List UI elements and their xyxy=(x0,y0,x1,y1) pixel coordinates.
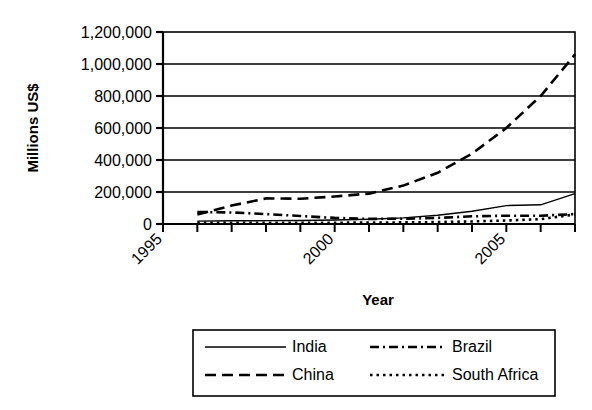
y-tick-label: 400,000 xyxy=(94,152,152,169)
legend: IndiaBrazilChinaSouth Africa xyxy=(193,330,555,396)
x-axis-title: Year xyxy=(362,291,394,308)
legend-label: China xyxy=(292,366,334,383)
legend-label: India xyxy=(292,338,327,355)
y-tick-label: 200,000 xyxy=(94,184,152,201)
legend-label: Brazil xyxy=(452,338,492,355)
line-chart-figure: 0200,000400,000600,000800,0001,000,0001,… xyxy=(0,0,592,410)
y-tick-label: 600,000 xyxy=(94,120,152,137)
y-axis-title: Millions US$ xyxy=(24,83,41,173)
legend-label: South Africa xyxy=(452,366,538,383)
y-tick-label: 800,000 xyxy=(94,88,152,105)
legend-box xyxy=(193,330,555,396)
y-tick-label: 0 xyxy=(143,216,152,233)
y-tick-label: 1,200,000 xyxy=(81,24,152,41)
y-tick-label: 1,000,000 xyxy=(81,56,152,73)
